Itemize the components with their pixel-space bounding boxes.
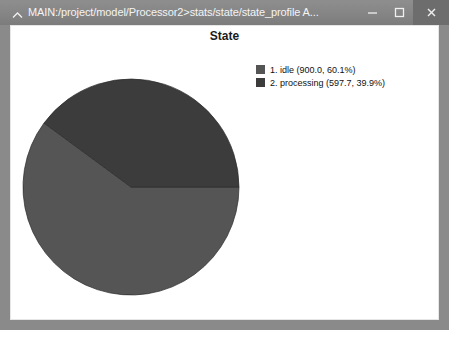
page-background: [0, 330, 449, 339]
legend-label-processing: 2. processing (597.7, 39.9%): [270, 78, 385, 88]
window-client-area: State 1. idle (900.0, 60.1%) 2. processi…: [0, 25, 449, 330]
window-title: MAIN:/project/model/Processor2>stats/sta…: [28, 6, 359, 19]
legend-item[interactable]: 1. idle (900.0, 60.1%): [256, 64, 385, 75]
maximize-button[interactable]: [386, 0, 413, 25]
chart-legend: 1. idle (900.0, 60.1%) 2. processing (59…: [256, 64, 385, 90]
window-titlebar[interactable]: MAIN:/project/model/Processor2>stats/sta…: [0, 0, 449, 25]
chevron-up-icon[interactable]: [12, 7, 23, 18]
close-button[interactable]: [413, 0, 449, 25]
legend-swatch-idle: [256, 65, 265, 74]
plot-area: State 1. idle (900.0, 60.1%) 2. processi…: [10, 25, 439, 320]
pie-slice-group: [23, 79, 239, 295]
plot-window: MAIN:/project/model/Processor2>stats/sta…: [0, 0, 449, 330]
legend-item[interactable]: 2. processing (597.7, 39.9%): [256, 77, 385, 88]
minimize-button[interactable]: [359, 0, 386, 25]
legend-swatch-processing: [256, 78, 265, 87]
legend-label-idle: 1. idle (900.0, 60.1%): [270, 65, 356, 75]
